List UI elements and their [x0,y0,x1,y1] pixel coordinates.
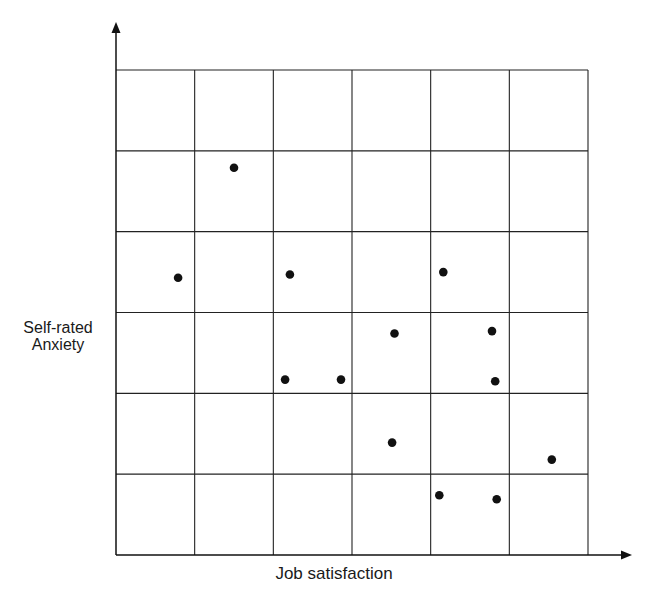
plot-axes [112,22,633,560]
data-point [390,329,399,338]
scatter-plot [0,0,646,593]
y-axis-label: Self-rated Anxiety [6,319,110,353]
data-point [439,268,448,277]
x-axis-label: Job satisfaction [234,564,434,584]
data-point [491,377,500,386]
y-axis-label-line-1: Self-rated [6,319,110,336]
data-point [174,273,183,282]
y-axis-arrow-icon [112,22,121,33]
data-point [286,270,295,279]
x-axis-arrow-icon [621,551,632,560]
data-point [337,375,346,384]
y-axis-label-line-2: Anxiety [6,336,110,353]
plot-grid [116,70,588,555]
data-point [435,491,444,500]
data-point [488,327,497,336]
data-point [281,375,290,384]
data-point [230,164,239,173]
data-point [388,438,397,447]
data-point [548,455,557,464]
data-point [492,495,501,504]
data-points [174,164,556,504]
